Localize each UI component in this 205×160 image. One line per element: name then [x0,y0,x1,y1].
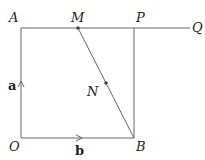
label-O: O [9,139,20,154]
label-Q: Q [192,20,203,35]
label-vector-a: a [8,78,17,93]
label-N: N [86,84,99,99]
label-P: P [135,10,145,25]
geometry-diagram: A M P Q N O B a b [0,0,205,160]
label-vector-b: b [75,143,84,158]
point-N [104,81,108,85]
label-A: A [8,10,18,25]
point-M [76,26,80,30]
label-M: M [70,10,85,25]
label-B: B [135,139,146,154]
